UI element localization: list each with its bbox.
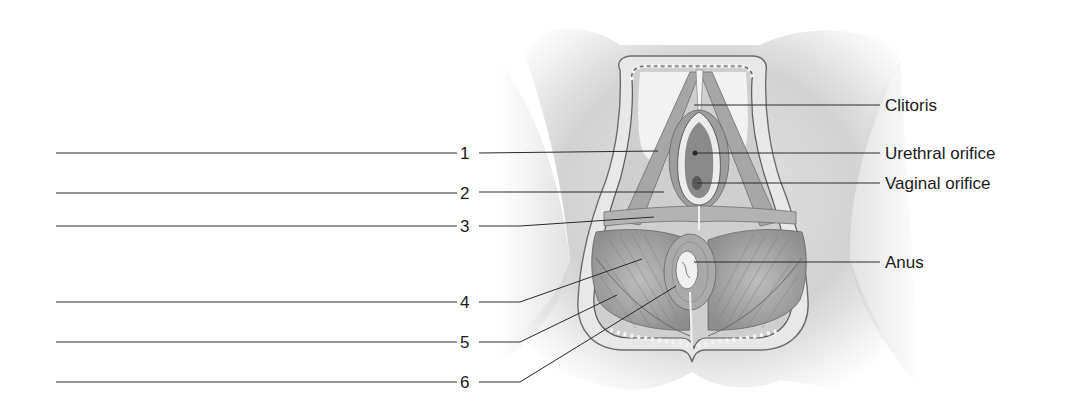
perineum-diagram: 1 2 3 4 5 6 Clitoris Urethral orifice Va…	[0, 0, 1072, 414]
label-number-6: 6	[460, 374, 469, 391]
label-number-5: 5	[460, 334, 469, 351]
label-vaginal-orifice: Vaginal orifice	[885, 175, 991, 192]
perineum-illustration	[0, 0, 1072, 414]
answer-blank-3[interactable]	[56, 226, 456, 227]
answer-blank-5[interactable]	[56, 342, 456, 343]
label-urethral-orifice: Urethral orifice	[885, 145, 996, 162]
label-number-3: 3	[460, 218, 469, 235]
label-number-1: 1	[460, 145, 469, 162]
label-number-4: 4	[460, 294, 469, 311]
answer-blank-4[interactable]	[56, 302, 456, 303]
answer-blank-1[interactable]	[56, 153, 456, 154]
label-anus: Anus	[885, 254, 924, 271]
label-clitoris: Clitoris	[885, 97, 937, 114]
answer-blank-2[interactable]	[56, 193, 456, 194]
answer-blank-6[interactable]	[56, 382, 456, 383]
label-number-2: 2	[460, 185, 469, 202]
